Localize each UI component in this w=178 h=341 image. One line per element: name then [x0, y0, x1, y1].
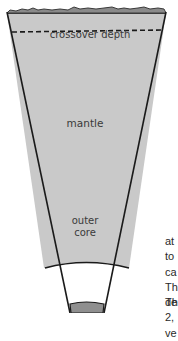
outer-core-label: outer core	[55, 215, 115, 238]
inner-core-region	[70, 302, 104, 313]
outer-core-region	[44, 262, 129, 304]
body-text-line: ve	[165, 326, 178, 341]
body-text-paragraph: at to ca Th de 2, ve	[165, 234, 178, 341]
body-text-line: Th	[165, 280, 178, 295]
body-text-line: ca	[165, 265, 178, 280]
body-text-next-paragraph: Th	[165, 295, 178, 310]
body-text-line: 2,	[165, 310, 178, 325]
body-text-line: to	[165, 249, 178, 264]
crust-layer	[7, 7, 166, 13]
mantle-label: mantle	[55, 117, 115, 129]
outer-core-label-line2: core	[55, 227, 115, 239]
crossover-depth-label: crossover depth	[20, 29, 160, 41]
outer-core-label-line1: outer	[55, 215, 115, 227]
body-text-line: at	[165, 234, 178, 249]
